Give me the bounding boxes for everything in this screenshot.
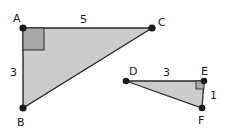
triangle-def-shape xyxy=(126,81,204,108)
vertex-a-point xyxy=(19,24,26,31)
vertex-b-label: B xyxy=(17,116,25,129)
vertex-d-label: D xyxy=(129,65,137,78)
vertex-c-point xyxy=(148,24,155,31)
side-ef-length: 1 xyxy=(210,89,217,102)
vertex-a-label: A xyxy=(13,12,21,25)
vertex-d-point xyxy=(123,78,130,85)
similar-triangles-diagram: A C B 5 3 D E F 3 1 xyxy=(0,0,226,133)
triangle-abc: A C B 5 3 xyxy=(10,12,166,129)
side-de-length: 3 xyxy=(163,66,170,79)
triangle-def: D E F 3 1 xyxy=(123,65,217,127)
vertex-e-point xyxy=(201,78,208,85)
vertex-e-label: E xyxy=(201,65,208,78)
vertex-c-label: C xyxy=(158,16,166,29)
side-ac-length: 5 xyxy=(80,13,87,26)
side-ab-length: 3 xyxy=(10,66,17,79)
right-angle-marker-a xyxy=(23,28,44,50)
vertex-f-label: F xyxy=(198,114,204,127)
vertex-f-point xyxy=(199,105,206,112)
vertex-b-point xyxy=(19,104,26,111)
